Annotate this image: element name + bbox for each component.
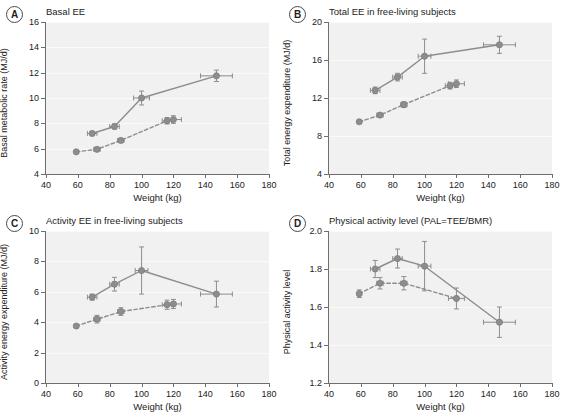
panel-d: D Physical activity level (PAL=TEE/BMR) … xyxy=(283,209,566,418)
y-tick-label: 12 xyxy=(29,68,39,78)
gridline xyxy=(329,231,552,232)
panel-a-badge: A xyxy=(6,6,23,23)
x-tick xyxy=(205,174,206,178)
x-tick-label: 100 xyxy=(134,180,149,190)
gridline xyxy=(46,123,269,124)
y-tick-label: 10 xyxy=(29,226,39,236)
panel-a-xlabel: Weight (kg) xyxy=(46,192,269,203)
x-tick-label: 160 xyxy=(513,180,528,190)
x-tick xyxy=(269,174,270,178)
panel-a-ylabel: Basal metabolic rate (MJ/d) xyxy=(0,28,11,178)
y-tick-label: 1.8 xyxy=(309,264,322,274)
y-tick xyxy=(41,98,45,99)
x-tick-label: 160 xyxy=(230,389,245,399)
y-tick xyxy=(41,353,45,354)
gridline xyxy=(329,60,552,61)
panel-a-y-axis xyxy=(45,22,46,174)
x-tick-label: 60 xyxy=(73,389,83,399)
x-tick xyxy=(329,383,330,387)
y-tick-label: 1.4 xyxy=(309,340,322,350)
x-tick xyxy=(361,383,362,387)
x-tick xyxy=(520,174,521,178)
y-tick xyxy=(324,98,328,99)
x-tick-label: 100 xyxy=(417,180,432,190)
gridline xyxy=(46,149,269,150)
x-tick xyxy=(110,383,111,387)
y-tick xyxy=(324,307,328,308)
x-tick xyxy=(46,383,47,387)
x-tick-label: 180 xyxy=(544,180,559,190)
panel-d-badge: D xyxy=(289,215,306,232)
y-tick xyxy=(41,123,45,124)
panel-b-title: Total EE in free-living subjects xyxy=(329,6,456,17)
y-tick xyxy=(324,174,328,175)
panel-c-badge: C xyxy=(6,215,23,232)
y-tick-label: 6 xyxy=(34,144,39,154)
y-tick xyxy=(41,73,45,74)
x-tick xyxy=(269,383,270,387)
x-tick-label: 120 xyxy=(449,389,464,399)
x-tick xyxy=(329,174,330,178)
gridline xyxy=(46,353,269,354)
y-tick xyxy=(41,174,45,175)
gridline xyxy=(329,98,552,99)
y-tick-label: 16 xyxy=(312,55,322,65)
x-tick xyxy=(205,383,206,387)
panel-a: A Basal EE Basal metabolic rate (MJ/d) W… xyxy=(0,0,283,209)
y-tick xyxy=(324,345,328,346)
y-tick-label: 8 xyxy=(317,131,322,141)
panel-c-plot-area xyxy=(46,231,269,383)
x-tick xyxy=(237,174,238,178)
y-tick xyxy=(324,60,328,61)
x-tick xyxy=(456,174,457,178)
panel-d-title: Physical activity level (PAL=TEE/BMR) xyxy=(329,215,492,226)
x-tick-label: 180 xyxy=(261,389,276,399)
x-tick-label: 100 xyxy=(417,389,432,399)
panel-d-plot-area xyxy=(329,231,552,383)
x-tick-label: 140 xyxy=(481,389,496,399)
gridline xyxy=(46,98,269,99)
x-tick xyxy=(393,383,394,387)
y-tick xyxy=(41,261,45,262)
panel-b-plot-area xyxy=(329,22,552,174)
panel-a-plot-area xyxy=(46,22,269,174)
x-tick-label: 120 xyxy=(449,180,464,190)
x-tick-label: 60 xyxy=(356,389,366,399)
y-tick xyxy=(324,22,328,23)
panel-b-y-axis xyxy=(328,22,329,174)
x-tick-label: 140 xyxy=(198,180,213,190)
gridline xyxy=(46,73,269,74)
gridline xyxy=(329,22,552,23)
x-tick xyxy=(142,174,143,178)
y-tick-label: 0 xyxy=(34,378,39,388)
y-tick-label: 16 xyxy=(29,17,39,27)
y-tick-label: 12 xyxy=(312,93,322,103)
x-tick xyxy=(78,383,79,387)
gridline xyxy=(46,292,269,293)
figure-multipanel: A Basal EE Basal metabolic rate (MJ/d) W… xyxy=(0,0,566,418)
y-tick-label: 8 xyxy=(34,118,39,128)
panel-c-ylabel: Activity energy expenditure (MJ/d) xyxy=(0,237,11,387)
x-tick xyxy=(173,174,174,178)
x-tick xyxy=(425,174,426,178)
y-tick-label: 4 xyxy=(34,317,39,327)
panel-b-xlabel: Weight (kg) xyxy=(329,192,552,203)
y-tick xyxy=(324,231,328,232)
x-tick-label: 180 xyxy=(261,180,276,190)
panel-c-y-axis xyxy=(45,231,46,383)
x-tick xyxy=(488,174,489,178)
panel-c: C Activity EE in free-living subjects Ac… xyxy=(0,209,283,418)
x-tick xyxy=(552,174,553,178)
panel-b-badge: B xyxy=(289,6,306,23)
x-tick xyxy=(142,383,143,387)
y-tick xyxy=(41,149,45,150)
panel-c-xlabel: Weight (kg) xyxy=(46,401,269,412)
x-tick-label: 40 xyxy=(41,180,51,190)
y-tick xyxy=(41,47,45,48)
panel-d-xlabel: Weight (kg) xyxy=(329,401,552,412)
panel-b-ylabel: Total energy expenditure (MJ/d) xyxy=(282,28,294,178)
panel-c-title: Activity EE in free-living subjects xyxy=(46,215,183,226)
x-tick xyxy=(78,174,79,178)
y-tick xyxy=(41,22,45,23)
gridline xyxy=(46,22,269,23)
